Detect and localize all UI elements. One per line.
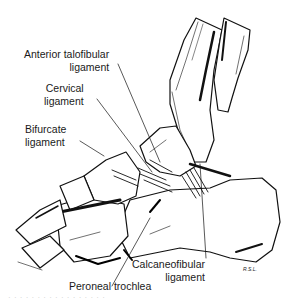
label-bifurcate-ligament: Bifurcate ligament <box>25 123 66 148</box>
label-line: ligament <box>44 95 84 108</box>
label-line: Cervical <box>44 82 84 95</box>
ankle-ligament-illustration <box>0 0 290 302</box>
label-anterior-talofibular-ligament: Anterior talofibular ligament <box>24 48 109 73</box>
calcaneus-bone <box>120 178 280 262</box>
artist-signature: R.S.L. <box>243 266 257 272</box>
caption-fragment: · · · · · · · · · · · · · · · · · <box>8 293 208 301</box>
label-peroneal-trochlea: Peroneal trochlea <box>69 280 151 293</box>
label-line: Bifurcate <box>25 123 66 136</box>
label-line: Peroneal trochlea <box>69 280 151 293</box>
label-cervical-ligament: Cervical ligament <box>44 82 84 107</box>
label-line: Calcaneofibular <box>132 258 205 271</box>
label-line: ligament <box>24 61 109 74</box>
label-line: ligament <box>25 136 66 149</box>
label-line: Anterior talofibular <box>24 48 109 61</box>
